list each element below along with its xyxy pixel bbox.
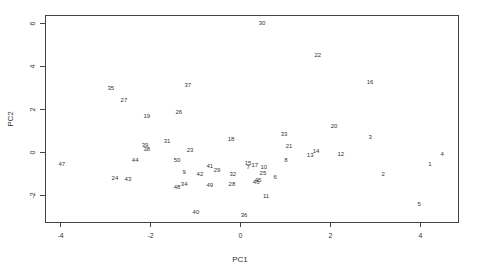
point-label: 24 [112,175,119,181]
point-label: 16 [367,79,374,85]
point-label: 18 [228,136,235,142]
point-label: 38 [144,146,151,152]
y-tick-label: 4 [29,64,36,68]
point-label: 30 [259,20,266,26]
y-tick-label: -2 [29,192,36,198]
y-tick-label: 2 [29,107,36,111]
point-label: 29 [214,167,221,173]
point-label: 5 [417,201,421,207]
point-label: 20 [331,123,338,129]
point-label: 27 [121,97,128,103]
point-label: 49 [207,182,214,188]
x-tick-label: 4 [419,232,423,239]
y-tick-label: 6 [29,21,36,25]
point-label: 48 [174,184,181,190]
point-label: 36 [241,212,248,218]
point-label: 6 [273,174,277,180]
y-tick-label: 0 [29,150,36,154]
x-axis: -4-2024 [57,222,422,239]
x-tick-label: -4 [57,232,63,239]
x-axis-label: PC1 [232,255,248,264]
point-label: 32 [229,171,236,177]
pca-scatter-plot: -4-2024 -20246 3022163537272619203331831… [0,0,482,274]
point-label: 34 [181,181,188,187]
point-label: 4 [440,151,444,157]
point-label: 44 [132,157,139,163]
point-label: 14 [313,148,320,154]
x-tick-label: 2 [329,232,333,239]
y-axis: -20246 [29,21,45,198]
point-label: 2 [381,171,385,177]
point-label: 13 [307,152,314,158]
point-label: 31 [164,138,171,144]
point-label: 33 [281,131,288,137]
point-label: 23 [187,147,194,153]
x-tick-label: -2 [147,232,153,239]
point-label: 42 [197,171,204,177]
point-label: 12 [337,151,344,157]
plot-frame [46,16,459,223]
point-label: 22 [315,52,322,58]
x-tick-label: 0 [239,232,243,239]
point-label: 8 [284,157,288,163]
point-label: 35 [108,85,115,91]
point-label: 11 [263,193,270,199]
point-label: 37 [184,82,191,88]
data-points: 3022163537272619203331831393821231413124… [58,20,444,218]
point-label: 46 [253,179,260,185]
point-label: 40 [193,209,200,215]
point-label: 25 [260,170,267,176]
point-label: 21 [286,143,293,149]
y-axis-label: PC2 [6,111,15,127]
point-label: 50 [174,157,181,163]
point-label: 47 [58,161,65,167]
point-label: 28 [229,181,236,187]
point-label: 26 [175,109,182,115]
point-label: 3 [368,134,372,140]
point-label: 19 [144,113,151,119]
point-label: 1 [428,161,432,167]
point-label: 9 [183,169,187,175]
point-label: 43 [125,176,132,182]
point-label: 17 [252,162,259,168]
